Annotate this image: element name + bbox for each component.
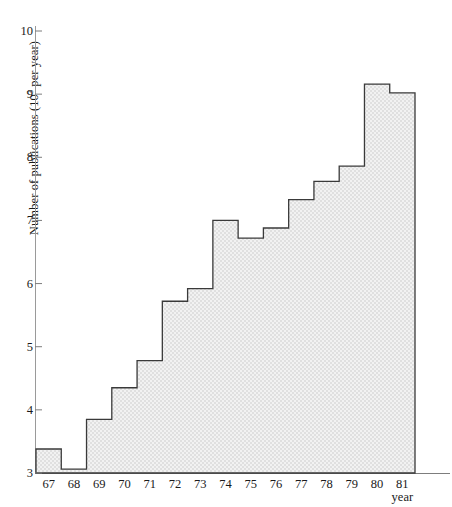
y-axis-tick-label: 7 <box>0 213 33 228</box>
x-axis-unit-label: year <box>377 490 427 505</box>
chart-plot-area <box>0 0 452 507</box>
chart-figure: Number of publications (103 per year) 34… <box>0 0 452 507</box>
y-axis-tick-label: 8 <box>0 150 33 165</box>
y-axis-tick-label: 9 <box>0 87 33 102</box>
y-axis-ticks <box>35 31 42 473</box>
histogram-fill <box>36 84 415 473</box>
y-axis-tick-label: 5 <box>0 340 33 355</box>
y-axis-tick-label: 6 <box>0 277 33 292</box>
histogram-series <box>36 84 415 473</box>
y-axis-tick-label: 4 <box>0 403 33 418</box>
y-axis-tick-label: 10 <box>0 24 33 39</box>
